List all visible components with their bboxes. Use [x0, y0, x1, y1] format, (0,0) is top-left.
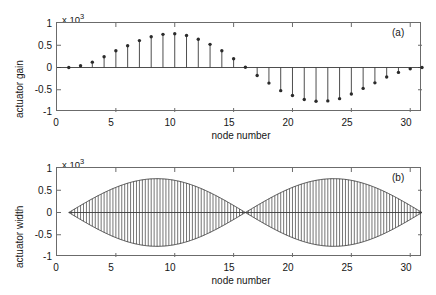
panel-a-ytick-neg1: -1 [22, 106, 52, 117]
panel-a-plot-box [56, 22, 421, 111]
panel-a-xtick-20: 20 [276, 117, 300, 128]
panel-a-xtick-25: 25 [335, 117, 359, 128]
panel-a-ytick-neg0p5: -0.5 [18, 84, 52, 95]
panel-b-xtick-25: 25 [335, 262, 359, 273]
panel-b-xtick-20: 20 [276, 262, 300, 273]
panel-a-ytick-0p5: 0.5 [20, 40, 52, 51]
panel-b-ytick-0: 0 [24, 207, 52, 218]
panel-b-xtick-5: 5 [99, 262, 123, 273]
panel-a-xtick-5: 5 [99, 117, 123, 128]
panel-b-ytick-0p5: 0.5 [20, 185, 52, 196]
panel-a-xtick-15: 15 [217, 117, 241, 128]
panel-b-ytick-neg1: -1 [22, 251, 52, 262]
panel-b-xtick-0: 0 [44, 262, 68, 273]
panel-b-ytick-neg0p5: -0.5 [18, 229, 52, 240]
panel-a-xtick-30: 30 [394, 117, 418, 128]
panel-a-ytick-1: 1 [24, 18, 52, 29]
panel-b-data-layer [57, 168, 422, 257]
panel-b-xtick-15: 15 [217, 262, 241, 273]
panel-b-x-axis-label: node number [176, 275, 306, 286]
panel-a-xtick-10: 10 [158, 117, 182, 128]
panel-a-data-layer [57, 23, 422, 112]
panel-a-x-axis-label: node number [176, 130, 306, 141]
panel-a-xtick-0: 0 [44, 117, 68, 128]
figure-canvas: x 103 actuator gain 1 0.5 0 -0.5 -1 0 5 … [0, 0, 436, 295]
panel-a-ytick-0: 0 [24, 62, 52, 73]
panel-b-ytick-1: 1 [24, 163, 52, 174]
panel-b-xtick-10: 10 [158, 262, 182, 273]
panel-b-xtick-30: 30 [394, 262, 418, 273]
panel-b-plot-box [56, 167, 421, 256]
